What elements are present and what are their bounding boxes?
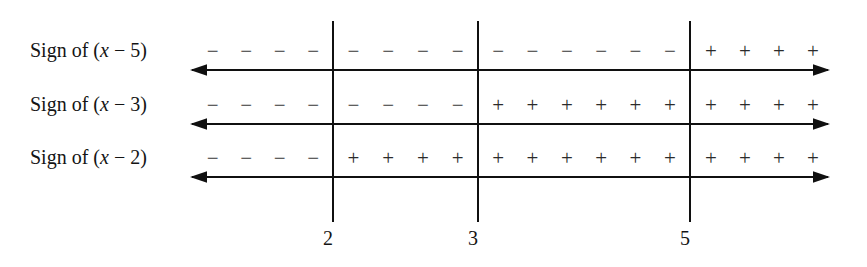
plus-sign: + bbox=[772, 41, 786, 62]
minus-sign: − bbox=[306, 95, 320, 116]
sign-group-row-x-minus-2-between-2-and-3: ++++ bbox=[336, 147, 475, 169]
tick-label-5: 5 bbox=[675, 228, 695, 248]
sign-group-row-x-minus-5-right-of-5: ++++ bbox=[694, 40, 830, 62]
sign-group-row-x-minus-3-right-of-5: ++++ bbox=[694, 94, 830, 116]
minus-sign: − bbox=[239, 95, 253, 116]
sign-group-row-x-minus-3-left-of-2: −−−− bbox=[196, 94, 330, 116]
tick-label-2: 2 bbox=[318, 228, 338, 248]
plus-sign: + bbox=[491, 95, 505, 116]
minus-sign: − bbox=[206, 41, 220, 62]
plus-sign: + bbox=[594, 95, 608, 116]
minus-sign: − bbox=[206, 148, 220, 169]
plus-sign: + bbox=[806, 148, 820, 169]
sign-group-row-x-minus-3-between-2-and-3: −−−− bbox=[336, 94, 475, 116]
plus-sign: + bbox=[594, 148, 608, 169]
minus-sign: − bbox=[306, 148, 320, 169]
minus-sign: − bbox=[239, 41, 253, 62]
sign-group-row-x-minus-2-left-of-2: −−−− bbox=[196, 147, 330, 169]
plus-sign: + bbox=[663, 95, 677, 116]
divider-line-3 bbox=[477, 21, 479, 222]
plus-sign: + bbox=[525, 148, 539, 169]
minus-sign: − bbox=[306, 41, 320, 62]
left-arrowhead bbox=[190, 64, 207, 76]
plus-sign: + bbox=[772, 95, 786, 116]
plus-sign: + bbox=[560, 148, 574, 169]
right-arrowhead bbox=[813, 64, 830, 76]
minus-sign: − bbox=[491, 41, 505, 62]
plus-sign: + bbox=[560, 95, 574, 116]
minus-sign: − bbox=[346, 95, 360, 116]
minus-sign: − bbox=[525, 41, 539, 62]
plus-sign: + bbox=[451, 148, 465, 169]
row-label-row-x-minus-2: Sign of (x − 2) bbox=[30, 147, 195, 167]
minus-sign: − bbox=[594, 41, 608, 62]
row-label-prefix: Sign of ( bbox=[30, 93, 100, 115]
plus-sign: + bbox=[663, 148, 677, 169]
sign-group-row-x-minus-2-between-3-and-5: ++++++ bbox=[481, 147, 687, 169]
plus-sign: + bbox=[628, 95, 642, 116]
left-arrowhead bbox=[190, 118, 207, 130]
plus-sign: + bbox=[704, 95, 718, 116]
number-line-row-x-minus-2 bbox=[190, 170, 830, 184]
minus-sign: − bbox=[663, 41, 677, 62]
plus-sign: + bbox=[346, 148, 360, 169]
plus-sign: + bbox=[525, 95, 539, 116]
sign-group-row-x-minus-3-between-3-and-5: ++++++ bbox=[481, 94, 687, 116]
plus-sign: + bbox=[381, 148, 395, 169]
divider-line-2 bbox=[332, 21, 334, 222]
minus-sign: − bbox=[416, 41, 430, 62]
plus-sign: + bbox=[738, 41, 752, 62]
row-label-operator: − bbox=[109, 93, 130, 115]
minus-sign: − bbox=[451, 95, 465, 116]
minus-sign: − bbox=[273, 148, 287, 169]
plus-sign: + bbox=[416, 148, 430, 169]
row-label-suffix: ) bbox=[140, 39, 147, 61]
plus-sign: + bbox=[491, 148, 505, 169]
row-label-operator: − bbox=[109, 39, 130, 61]
minus-sign: − bbox=[381, 95, 395, 116]
plus-sign: + bbox=[704, 41, 718, 62]
row-label-suffix: ) bbox=[140, 146, 147, 168]
plus-sign: + bbox=[628, 148, 642, 169]
row-label-row-x-minus-3: Sign of (x − 3) bbox=[30, 94, 195, 114]
plus-sign: + bbox=[704, 148, 718, 169]
row-label-variable: x bbox=[100, 39, 109, 61]
minus-sign: − bbox=[381, 41, 395, 62]
row-label-row-x-minus-5: Sign of (x − 5) bbox=[30, 40, 195, 60]
row-label-prefix: Sign of ( bbox=[30, 146, 100, 168]
plus-sign: + bbox=[738, 95, 752, 116]
plus-sign: + bbox=[806, 41, 820, 62]
row-label-constant: 5 bbox=[130, 39, 140, 61]
minus-sign: − bbox=[416, 95, 430, 116]
row-label-variable: x bbox=[100, 93, 109, 115]
row-label-constant: 2 bbox=[130, 146, 140, 168]
minus-sign: − bbox=[451, 41, 465, 62]
minus-sign: − bbox=[273, 95, 287, 116]
sign-group-row-x-minus-5-left-of-2: −−−− bbox=[196, 40, 330, 62]
sign-group-row-x-minus-2-right-of-5: ++++ bbox=[694, 147, 830, 169]
minus-sign: − bbox=[628, 41, 642, 62]
row-label-suffix: ) bbox=[140, 93, 147, 115]
right-arrowhead bbox=[813, 171, 830, 183]
divider-line-5 bbox=[689, 21, 691, 222]
plus-sign: + bbox=[738, 148, 752, 169]
minus-sign: − bbox=[206, 95, 220, 116]
sign-group-row-x-minus-5-between-3-and-5: −−−−−− bbox=[481, 40, 687, 62]
row-label-variable: x bbox=[100, 146, 109, 168]
plus-sign: + bbox=[806, 95, 820, 116]
sign-chart-figure: Sign of (x − 5)−−−−−−−−−−−−−−++++Sign of… bbox=[0, 0, 867, 267]
minus-sign: − bbox=[239, 148, 253, 169]
tick-label-3: 3 bbox=[463, 228, 483, 248]
plus-sign: + bbox=[772, 148, 786, 169]
row-label-prefix: Sign of ( bbox=[30, 39, 100, 61]
left-arrowhead bbox=[190, 171, 207, 183]
row-label-operator: − bbox=[109, 146, 130, 168]
number-line-row-x-minus-5 bbox=[190, 63, 830, 77]
minus-sign: − bbox=[560, 41, 574, 62]
minus-sign: − bbox=[273, 41, 287, 62]
sign-group-row-x-minus-5-between-2-and-3: −−−− bbox=[336, 40, 475, 62]
minus-sign: − bbox=[346, 41, 360, 62]
number-line-row-x-minus-3 bbox=[190, 117, 830, 131]
right-arrowhead bbox=[813, 118, 830, 130]
row-label-constant: 3 bbox=[130, 93, 140, 115]
